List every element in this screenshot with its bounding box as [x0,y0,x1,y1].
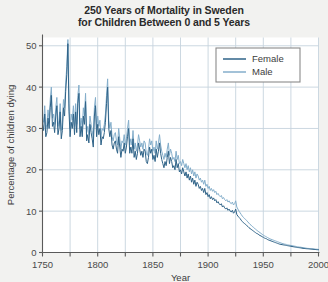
x-tick-label: 1900 [198,259,219,270]
y-tick-label: 30 [26,123,37,134]
y-tick-label: 20 [26,164,37,175]
y-axis-title: Percentage of children dying [5,85,16,205]
x-tick-label: 1950 [253,259,274,270]
y-tick-label: 50 [26,40,37,51]
chart-legend[interactable]: FemaleMale [216,48,300,82]
y-tick-label: 0 [31,247,36,258]
y-tick-label: 40 [26,82,37,93]
x-axis-title: Year [171,272,190,282]
x-tick-label: 1850 [142,259,163,270]
y-tick-label: 10 [26,206,37,217]
legend-label-female: Female [252,53,284,64]
x-tick-label: 1800 [87,259,108,270]
chart-plot: 01020304050175018001850190019502000 Year… [0,0,328,282]
chart-figure: 250 Years of Mortality in Sweden for Chi… [0,0,328,282]
x-tick-label: 1750 [32,259,53,270]
x-tick-label: 2000 [308,259,328,270]
legend-label-male: Male [252,66,273,77]
